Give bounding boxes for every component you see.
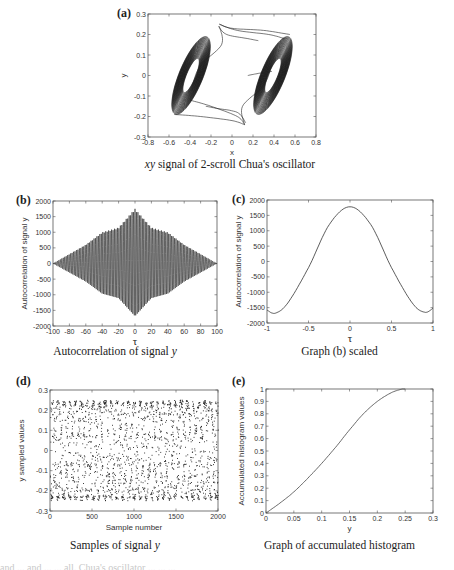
chart-c-autocorrelation-scaled: -1-0.500.51-2000-1500-1000-5000500100015… xyxy=(267,200,433,323)
caption-b-italic: y xyxy=(172,345,177,357)
chart-e-plot: 00.050.10.150.20.250.300.10.20.30.40.50.… xyxy=(266,389,433,513)
y-axis-label: Accumulated histogram values xyxy=(237,397,246,506)
chart-b-plot: -100-80-60-40-20020406080100-2000-1500-1… xyxy=(53,201,217,326)
x-tick-label: -40 xyxy=(97,328,107,335)
x-tick-label: 0.25 xyxy=(398,515,412,522)
chart-d-plot: 0500100015002000-0.3-0.2-0.100.10.20.3Sa… xyxy=(50,390,218,511)
caption-e: Graph of accumulated histogram xyxy=(225,539,454,551)
chart-a-plot: -0.8-0.6-0.4-0.200.20.40.60.8-0.3-0.2-0.… xyxy=(148,14,316,137)
caption-a-italic: xy xyxy=(145,158,155,170)
y-axis-label: y xyxy=(119,74,128,78)
chart-b-autocorrelation: -100-80-60-40-20020406080100-2000-1500-1… xyxy=(53,201,217,326)
y-tick-label: 0.5 xyxy=(254,448,264,455)
x-tick-label: 0 xyxy=(230,139,234,146)
y-tick-label: 0.1 xyxy=(254,497,264,504)
y-tick-label: -0.2 xyxy=(134,113,146,120)
x-tick-label: 0.3 xyxy=(428,515,438,522)
y-tick-label: -0.2 xyxy=(36,487,48,494)
x-axis-label: τ xyxy=(348,332,353,344)
y-tick-label: -1000 xyxy=(247,289,265,296)
x-axis-label: y xyxy=(348,524,352,533)
x-axis-label: x xyxy=(230,148,234,157)
y-tick-label: 0 xyxy=(44,447,48,454)
y-tick-label: 0.4 xyxy=(254,460,264,467)
y-tick-label: 2000 xyxy=(249,197,265,204)
x-tick-label: 20 xyxy=(148,328,156,335)
y-tick-label: 0.7 xyxy=(254,423,264,430)
caption-c: Graph (b) scaled xyxy=(225,345,454,357)
caption-e-text: Graph of accumulated histogram xyxy=(264,539,415,551)
y-tick-label: 0.6 xyxy=(254,435,264,442)
y-tick-label: 0.1 xyxy=(38,427,48,434)
y-tick-label: -500 xyxy=(37,276,51,283)
samples-series xyxy=(50,400,219,501)
x-tick-label: -0.5 xyxy=(302,325,314,332)
caption-b-text: Autocorrelation of signal xyxy=(53,345,171,357)
y-tick-label: 500 xyxy=(253,243,265,250)
y-tick-label: 0.8 xyxy=(254,410,264,417)
x-tick-label: 0.8 xyxy=(311,139,321,146)
caption-a: xy signal of 2-scroll Chua's oscillator xyxy=(100,158,360,170)
x-tick-label: -0.2 xyxy=(205,139,217,146)
chart-e-accumulated-histogram: 00.050.10.150.20.250.300.10.20.30.40.50.… xyxy=(266,389,433,513)
y-tick-label: -0.1 xyxy=(36,467,48,474)
x-tick-label: 0.1 xyxy=(317,515,327,522)
y-tick-label: 1 xyxy=(260,386,264,393)
y-tick-label: -1500 xyxy=(247,304,265,311)
panel-letter-c: (c) xyxy=(232,192,245,207)
y-tick-label: -2000 xyxy=(247,320,265,327)
caption-a-text: signal of 2-scroll Chua's oscillator xyxy=(155,158,315,170)
y-tick-label: -1500 xyxy=(33,307,51,314)
y-tick-label: 0.2 xyxy=(38,407,48,414)
x-tick-label: -0.6 xyxy=(163,139,175,146)
x-tick-label: 500 xyxy=(86,513,98,520)
y-tick-label: 0.3 xyxy=(38,387,48,394)
y-tick-label: 0.3 xyxy=(254,472,264,479)
x-axis-label: Sample number xyxy=(106,523,163,532)
y-tick-label: -500 xyxy=(251,273,265,280)
y-tick-label: -0.1 xyxy=(134,93,146,100)
chart-d-samples: 0500100015002000-0.3-0.2-0.100.10.20.3Sa… xyxy=(50,390,218,511)
x-tick-label: -60 xyxy=(81,328,91,335)
y-tick-label: 0.2 xyxy=(254,485,264,492)
y-axis-label: Autocorrelation of signal y xyxy=(20,217,29,309)
x-tick-label: 0.4 xyxy=(269,139,279,146)
x-tick-label: 60 xyxy=(180,328,188,335)
accumulated-histogram-series xyxy=(266,389,405,513)
x-tick-label: 0.15 xyxy=(343,515,357,522)
y-tick-label: 0 xyxy=(261,258,265,265)
y-tick-label: -2000 xyxy=(33,323,51,330)
panel-letter-b: (b) xyxy=(16,193,31,208)
x-tick-label: -80 xyxy=(64,328,74,335)
panel-letter-d: (d) xyxy=(16,374,31,389)
y-tick-label: 0.9 xyxy=(254,398,264,405)
y-tick-label: 1500 xyxy=(249,212,265,219)
x-tick-label: 40 xyxy=(164,328,172,335)
x-tick-label: 1000 xyxy=(126,513,142,520)
y-tick-label: -0.3 xyxy=(134,134,146,141)
x-tick-label: 80 xyxy=(197,328,205,335)
x-tick-label: 100 xyxy=(211,328,223,335)
caption-c-text: Graph (b) scaled xyxy=(301,345,378,357)
y-tick-label: 0.3 xyxy=(136,11,146,18)
chart-c-plot: -1-0.500.51-2000-1500-1000-5000500100015… xyxy=(267,200,433,323)
y-tick-label: 1000 xyxy=(35,229,51,236)
y-tick-label: 1500 xyxy=(35,213,51,220)
chart-a-xy-attractor: -0.8-0.6-0.4-0.200.20.40.60.8-0.3-0.2-0.… xyxy=(148,14,316,137)
panel-letter-a: (a) xyxy=(117,6,131,21)
y-tick-label: -1000 xyxy=(33,291,51,298)
clipped-caption-line: and ... and ... ... all. Chua's oscillat… xyxy=(0,562,454,570)
x-tick-label: 0 xyxy=(48,513,52,520)
x-tick-label: -0.4 xyxy=(184,139,196,146)
y-axis-label: y sampled values xyxy=(17,420,26,482)
y-tick-label: 0 xyxy=(142,72,146,79)
plot-frame xyxy=(50,390,218,511)
y-tick-label: 0.1 xyxy=(136,52,146,59)
panel-letter-e: (e) xyxy=(232,374,245,389)
x-tick-label: 0 xyxy=(133,328,137,335)
y-tick-label: 0 xyxy=(260,510,264,517)
x-tick-label: 1500 xyxy=(168,513,184,520)
plot-frame xyxy=(148,14,316,137)
y-tick-label: -0.3 xyxy=(36,508,48,515)
caption-d-italic: y xyxy=(155,539,160,551)
